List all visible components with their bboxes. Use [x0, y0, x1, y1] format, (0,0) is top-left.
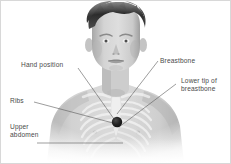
label-lower-tip-of-breastbone: Lower tip of breastbone — [181, 77, 217, 93]
hand-position-marker — [112, 117, 122, 127]
label-hand-position: Hand position — [21, 61, 63, 69]
anatomy-diagram-figure: Hand position Ribs Upper abdomen Breastb… — [0, 0, 231, 164]
label-upper-abdomen: Upper abdomen — [10, 123, 39, 139]
label-ribs: Ribs — [10, 97, 24, 105]
label-breastbone: Breastbone — [160, 57, 195, 65]
